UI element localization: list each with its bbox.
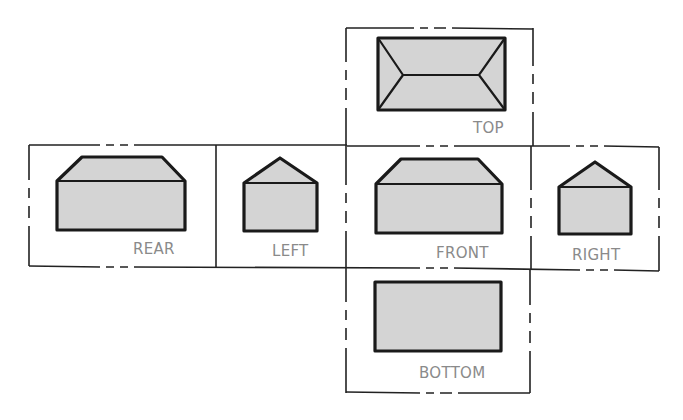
front-label: FRONT (436, 244, 489, 262)
left-view: LEFT (244, 158, 317, 260)
right-view: RIGHT (559, 162, 631, 264)
top-label: TOP (472, 119, 504, 137)
bottom-view: BOTTOM (375, 282, 501, 382)
rear-view: REAR (57, 157, 185, 258)
top-view: TOP (378, 38, 505, 137)
rear-label: REAR (133, 240, 175, 258)
bottom-frame-edge (346, 392, 530, 393)
bottom-label: BOTTOM (419, 364, 485, 382)
front-view: FRONT (376, 159, 502, 262)
left-label: LEFT (272, 242, 309, 260)
right-label: RIGHT (572, 246, 621, 264)
top-frame-edge (346, 28, 533, 29)
projection-diagram: TOP REAR LEFT FRONT RIGHT BOTTOM (0, 0, 683, 420)
